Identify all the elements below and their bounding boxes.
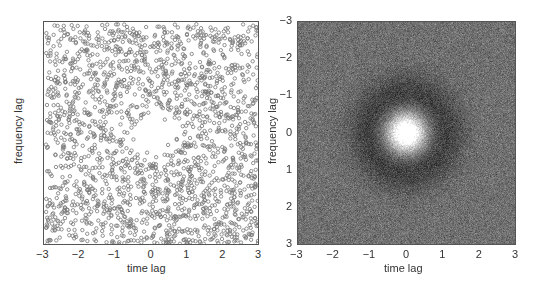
y-tick-label: −2 — [279, 52, 292, 63]
y-tick-label: −1 — [279, 89, 292, 100]
x-tick-label: 0 — [403, 249, 409, 260]
x-tick-label: 3 — [512, 249, 518, 260]
y-tick-label: 2 — [286, 201, 292, 212]
x-tick-label: 2 — [476, 249, 482, 260]
y-tick-label: 1 — [286, 164, 292, 175]
y-tick-label: 0 — [286, 127, 292, 138]
heatmap-panel: frequency lag −3−2−10123 −3−2−10123 time… — [0, 0, 535, 282]
x-axis-label: time lag — [384, 262, 423, 274]
x-tick-label: −3 — [290, 249, 303, 260]
x-tick-label: −1 — [363, 249, 376, 260]
x-tick-label: 1 — [439, 249, 445, 260]
y-tick-label: −3 — [279, 15, 292, 26]
heatmap-plot-area — [297, 21, 516, 245]
y-axis-label: frequency lag — [266, 91, 278, 171]
x-tick-label: −2 — [326, 249, 339, 260]
heatmap-image — [298, 22, 515, 244]
